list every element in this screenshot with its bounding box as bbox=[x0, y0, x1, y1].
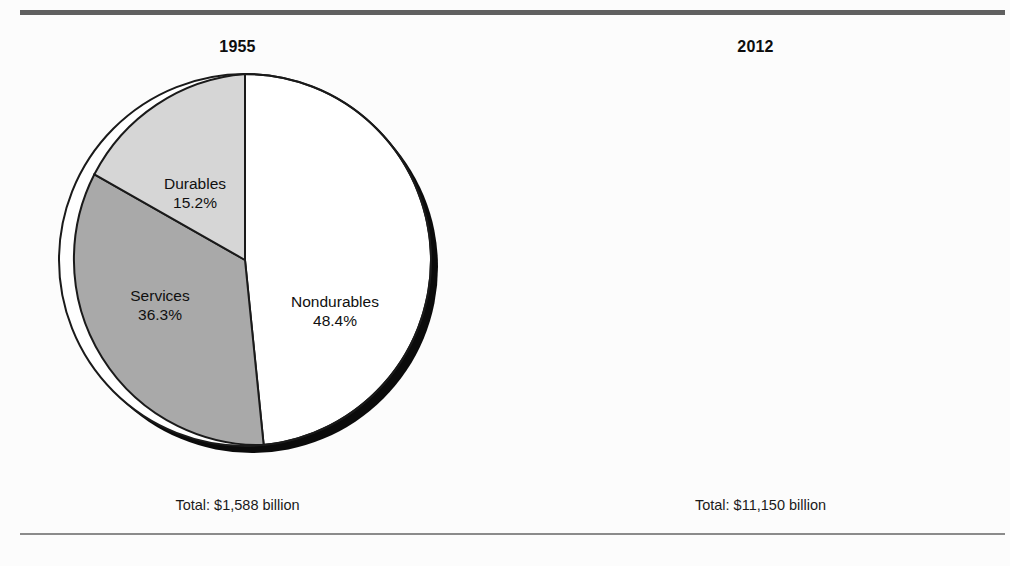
slice-label-1955-nondurables: Nondurables 48.4% bbox=[255, 293, 415, 331]
slice-percent: 15.2% bbox=[125, 194, 265, 213]
pie-chart-1955: Durables 15.2% Nondurables 48.4% Service… bbox=[55, 63, 455, 473]
panel-total-2012: Total: $11,150 billion bbox=[508, 497, 1010, 513]
panel-title-1955: 1955 bbox=[0, 38, 490, 56]
panel-2012: 2012 Durables 10.9% Nondurables bbox=[505, 0, 1010, 566]
panel-title-2012: 2012 bbox=[503, 38, 1008, 56]
pie-1955-slice-nondurables[interactable] bbox=[245, 74, 431, 445]
panel-total-1955: Total: $1,588 billion bbox=[0, 497, 490, 513]
slice-percent: 48.4% bbox=[255, 312, 415, 331]
slice-name: Nondurables bbox=[255, 293, 415, 312]
slice-label-1955-durables: Durables 15.2% bbox=[125, 175, 265, 213]
bottom-rule bbox=[20, 533, 1005, 535]
slice-label-1955-services: Services 36.3% bbox=[95, 287, 225, 325]
slice-name: Services bbox=[95, 287, 225, 306]
panel-1955: 1955 Durables 15.2% N bbox=[0, 0, 505, 566]
slice-name: Durables bbox=[125, 175, 265, 194]
slice-percent: 36.3% bbox=[95, 306, 225, 325]
figure-canvas: 1955 Durables 15.2% N bbox=[0, 0, 1010, 566]
pie-1955-svg bbox=[55, 63, 455, 473]
